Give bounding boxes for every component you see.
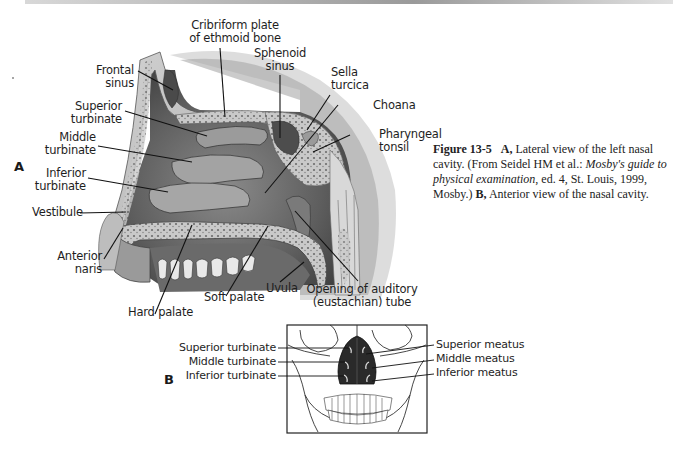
label-line: of ethmoid bone bbox=[180, 32, 290, 45]
label-line: turbinate bbox=[60, 113, 122, 126]
figure-caption: Figure 13-5 A, Lateral view of the left … bbox=[433, 142, 673, 202]
panel-b-letter: B bbox=[164, 372, 174, 387]
label-choana: Choana bbox=[373, 99, 416, 112]
caption-b-text: Anterior view of the nasal cavity. bbox=[489, 187, 649, 201]
label-line: naris bbox=[48, 263, 102, 276]
label-b-superior-meatus: Superior meatus bbox=[436, 338, 524, 351]
label-sella-turcica: Sella turcica bbox=[331, 66, 369, 92]
label-line: sinus bbox=[88, 77, 134, 90]
label-b-inferior-turbinate: Inferior turbinate bbox=[170, 369, 276, 382]
label-line: turcica bbox=[331, 79, 369, 92]
label-uvula: Uvula bbox=[266, 282, 298, 295]
label-soft-palate: Soft palate bbox=[204, 291, 264, 304]
caption-a-label: A, bbox=[501, 142, 513, 156]
label-anterior-naris: Anterior naris bbox=[48, 250, 102, 276]
label-auditory-tube: Opening of auditory (eustachian) tube bbox=[302, 283, 422, 309]
label-vestibule: Vestibule bbox=[32, 206, 83, 219]
label-b-middle-turbinate: Middle turbinate bbox=[170, 355, 276, 368]
label-cribriform-plate: Cribriform plate of ethmoid bone bbox=[180, 19, 290, 45]
panel-a-letter: A bbox=[14, 159, 24, 174]
caption-b-label: B, bbox=[476, 187, 487, 201]
label-inferior-turbinate: Inferior turbinate bbox=[24, 167, 86, 193]
label-line: turbinate bbox=[34, 144, 96, 157]
label-hard-palate: Hard palate bbox=[128, 306, 193, 319]
label-middle-turbinate: Middle turbinate bbox=[34, 131, 96, 157]
label-line: sinus bbox=[252, 60, 308, 73]
label-b-inferior-meatus: Inferior meatus bbox=[436, 366, 517, 379]
figure-number: Figure 13-5 bbox=[433, 142, 492, 156]
label-frontal-sinus: Frontal sinus bbox=[88, 64, 134, 90]
label-line: (eustachian) tube bbox=[302, 296, 422, 309]
label-line: turbinate bbox=[24, 180, 86, 193]
label-b-middle-meatus: Middle meatus bbox=[436, 352, 514, 365]
label-sphenoid-sinus: Sphenoid sinus bbox=[252, 47, 308, 73]
label-superior-turbinate: Superior turbinate bbox=[60, 100, 122, 126]
label-b-superior-turbinate: Superior turbinate bbox=[170, 341, 276, 354]
